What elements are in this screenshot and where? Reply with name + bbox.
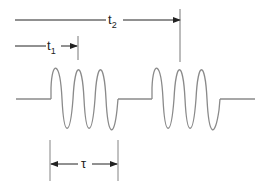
t1-label: t1 [47, 38, 56, 56]
timing-diagram: t2 t1 τ [0, 0, 268, 187]
tau-label: τ [81, 156, 87, 171]
burst-2 [152, 68, 220, 130]
t2-label: t2 [108, 12, 117, 30]
burst-1 [51, 68, 118, 130]
waveform [16, 68, 255, 130]
t2-dimension [15, 9, 180, 62]
